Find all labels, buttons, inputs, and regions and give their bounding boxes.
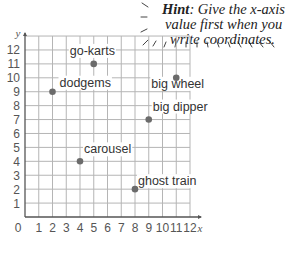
hint-bold-label: Hint: [161, 1, 190, 17]
point-marker: [90, 61, 97, 68]
y-tick-label: 12: [7, 43, 21, 57]
hint-line-1-text: : Give the x-axis: [189, 1, 285, 17]
point-marker: [145, 116, 152, 123]
point-marker: [132, 186, 139, 193]
y-tick-label: 11: [8, 57, 21, 71]
data-point-ghost-train: ghost train: [132, 174, 198, 192]
point-label: big dipper: [153, 100, 208, 114]
data-point-big-wheel: big wheel: [150, 75, 205, 91]
x-axis-label: x: [197, 222, 203, 234]
point-marker: [77, 158, 84, 165]
y-tick-label: 1: [13, 197, 20, 211]
x-axis-arrow-icon: [198, 215, 202, 219]
x-tick-label: 1: [35, 221, 42, 235]
x-tick-label: 7: [118, 221, 125, 235]
coordinate-grid-chart: Hint: Give the x-axis value first when y…: [0, 0, 293, 263]
x-tick-label: 4: [77, 221, 84, 235]
tick-labels: 0123456789101112x123456789101112y: [7, 27, 203, 235]
point-label: carousel: [84, 142, 131, 156]
x-tick-label: 10: [156, 221, 170, 235]
point-label: ghost train: [138, 174, 196, 188]
data-points: go-kartsdodgemsbig wheelbig dippercarous…: [49, 44, 208, 193]
y-tick-label: 8: [13, 99, 20, 113]
x-tick-label: 3: [63, 221, 70, 235]
hint-line-1: Hint: Give the x-axis: [161, 1, 285, 17]
grid-lines: [25, 36, 190, 217]
x-tick-label: 9: [145, 221, 152, 235]
y-tick-label: 9: [13, 85, 20, 99]
y-tick-label: 2: [13, 183, 20, 197]
y-tick-label: 5: [13, 141, 20, 155]
axes: [23, 32, 202, 219]
y-tick-label: 3: [13, 169, 20, 183]
x-tick-label: 11: [170, 221, 183, 235]
y-tick-label: 6: [13, 127, 20, 141]
y-tick-label: 10: [7, 71, 21, 85]
x-tick-label: 2: [49, 221, 56, 235]
hint-line-3: write coordinates.: [170, 31, 275, 47]
x-tick-label: 8: [132, 221, 139, 235]
y-tick-label: 4: [13, 155, 20, 169]
x-tick-label: 6: [104, 221, 111, 235]
point-label: dodgems: [60, 76, 111, 90]
hint-line-2: value first when you: [165, 16, 282, 32]
x-tick-label: 0: [15, 221, 22, 235]
point-label: go-karts: [70, 44, 115, 58]
point-marker: [49, 88, 56, 95]
y-axis-arrow-icon: [23, 32, 27, 36]
x-tick-label: 5: [90, 221, 97, 235]
x-tick-label: 12: [183, 221, 197, 235]
point-marker: [173, 75, 180, 82]
y-tick-label: 7: [13, 113, 20, 127]
y-axis-label: y: [15, 27, 21, 39]
